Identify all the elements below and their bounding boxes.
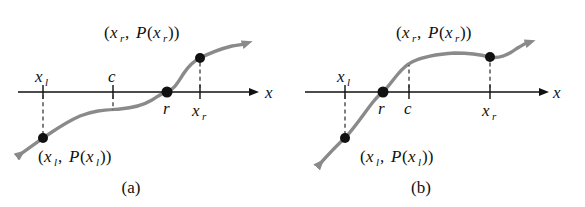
panel-a-label-xr: x r xyxy=(191,101,207,122)
panel-b-label-xl-sub: l xyxy=(347,76,350,88)
panel-b-upper-var1: x xyxy=(401,23,410,42)
panel-b-label-xr: x r xyxy=(481,101,497,122)
panel-a-lower-var1-sub: l xyxy=(54,156,57,168)
panel-b-label-xr-var: x xyxy=(481,101,490,120)
panel-b-label-xr-sub: r xyxy=(492,110,497,122)
panel-b-point-root xyxy=(378,87,389,98)
panel-a: x x l c r x r ( x r , P ( x r )) ( xyxy=(18,23,273,197)
panel-a-lower-func: P xyxy=(68,147,79,166)
panel-b-lower-close: )) xyxy=(422,147,433,166)
panel-a-upper-var2: x xyxy=(152,23,161,42)
panel-a-upper-var1: x xyxy=(109,23,118,42)
panel-a-lower-comma: , xyxy=(58,147,62,166)
panel-a-point-root xyxy=(162,87,173,98)
panel-a-upper-comma: , xyxy=(125,23,129,42)
panel-b-label-xl-var: x xyxy=(336,67,345,86)
panel-a-label-xr-var: x xyxy=(191,101,200,120)
panel-b-upper-point-label: ( x r , P ( x r )) xyxy=(396,23,471,44)
panel-b-lower-var2: x xyxy=(407,147,416,166)
panel-b-label-c: c xyxy=(404,99,412,118)
panel-b-caption: (b) xyxy=(411,178,431,197)
panel-a-upper-func: P xyxy=(135,23,146,42)
panel-b-upper-func: P xyxy=(427,23,438,42)
panel-b-lower-var1-sub: l xyxy=(376,156,379,168)
panel-a-label-root: r xyxy=(163,99,170,118)
panel-a-lower-var2: x xyxy=(85,147,94,166)
panel-a-lower-var2-sub: l xyxy=(96,156,99,168)
panel-b-upper-close: )) xyxy=(460,23,471,42)
panel-b-lower-var2-sub: l xyxy=(418,156,421,168)
function-root-bracketing-figure: x x l c r x r ( x r , P ( x r )) ( xyxy=(0,0,585,207)
panel-b-lower-func: P xyxy=(390,147,401,166)
panel-b-label-root: r xyxy=(378,99,385,118)
panel-a-axis-label: x xyxy=(264,83,273,102)
panel-a-upper-point-label: ( x r , P ( x r )) xyxy=(104,23,179,44)
panel-a-caption: (a) xyxy=(122,178,141,197)
panel-a-lower-var1: x xyxy=(43,147,52,166)
panel-b-upper-comma: , xyxy=(417,23,421,42)
panel-a-label-xl-sub: l xyxy=(45,76,48,88)
panel-b: x x l r c x r ( x r , P ( x r )) ( xyxy=(305,23,561,197)
panel-a-upper-close: )) xyxy=(168,23,179,42)
panel-b-lower-var1: x xyxy=(365,147,374,166)
panel-b-label-xl: x l xyxy=(336,67,350,88)
panel-a-label-xl-var: x xyxy=(34,67,43,86)
panel-a-label-c: c xyxy=(108,67,116,86)
panel-b-lower-point-label: ( x l , P ( x l )) xyxy=(360,147,433,168)
panel-b-point-xl xyxy=(340,133,350,143)
panel-a-label-xr-sub: r xyxy=(202,110,207,122)
panel-a-polynomial-curve xyxy=(18,44,244,156)
panel-a-lower-close: )) xyxy=(100,147,111,166)
panel-b-upper-var2: x xyxy=(444,23,453,42)
panel-a-point-xr xyxy=(195,53,205,63)
panel-b-lower-comma: , xyxy=(380,147,384,166)
panel-a-lower-point-label: ( x l , P ( x l )) xyxy=(38,147,111,168)
panel-b-point-xr xyxy=(485,52,495,62)
panel-b-axis-label: x xyxy=(552,83,561,102)
panel-a-label-xl: x l xyxy=(34,67,48,88)
panel-a-point-xl xyxy=(38,133,48,143)
